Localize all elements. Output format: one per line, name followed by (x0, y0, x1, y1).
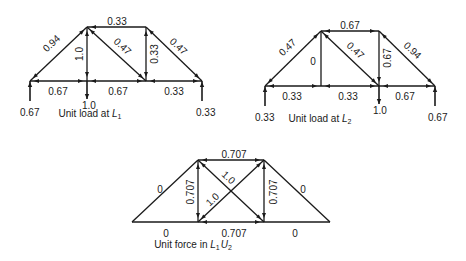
load-value-label: 0.67 (428, 112, 448, 123)
member-force-label: 0.67 (48, 86, 68, 97)
member-force-label: 0.67 (340, 20, 360, 31)
arrow-up-icon (263, 87, 267, 92)
member-U1-L2 (87, 27, 146, 81)
force-arrow-icon (85, 72, 89, 77)
force-arrow-icon (78, 79, 83, 83)
force-arrow-icon (370, 84, 375, 88)
arrow-up-icon (28, 82, 32, 87)
member-U1-L2 (321, 31, 379, 86)
force-arrow-icon (325, 29, 330, 33)
member-force-label: 0 (157, 184, 163, 195)
member-force-label: 0.47 (168, 36, 190, 58)
diagram-caption: Unit load at L2 (289, 113, 352, 125)
force-arrow-icon (202, 220, 207, 224)
force-arrow-icon (269, 84, 274, 88)
arrow-up-icon (433, 87, 437, 92)
truss-influence-diagrams: 0.941.00.330.470.330.470.670.670.330.671… (0, 0, 466, 261)
arrow-up-icon (200, 82, 204, 87)
force-arrow-icon (34, 79, 39, 83)
load-value-label: 0.33 (196, 107, 216, 118)
member-force-label: 0.94 (41, 32, 63, 54)
force-arrow-icon (262, 164, 266, 169)
member-force-label: 0.33 (107, 16, 127, 27)
force-arrow-icon (150, 79, 155, 83)
force-arrow-icon (312, 84, 317, 88)
member-force-label: 0.94 (402, 40, 424, 62)
member-force-label: 0.707 (268, 179, 279, 204)
force-arrow-icon (193, 79, 198, 83)
arrow-down-icon (85, 94, 89, 99)
member-force-label: 0 (292, 228, 298, 239)
member-force-label: 0.67 (382, 48, 393, 68)
force-arrow-icon (91, 79, 96, 83)
force-arrow-icon (262, 213, 266, 218)
force-arrow-icon (85, 31, 89, 36)
force-arrow-icon (144, 31, 148, 36)
member-force-label: 1.0 (74, 47, 85, 61)
member-force-label: 0.33 (149, 44, 160, 64)
force-arrow-icon (91, 25, 96, 29)
arrow-down-icon (377, 99, 381, 104)
force-arrow-icon (325, 84, 330, 88)
load-value-label: 0.33 (255, 112, 275, 123)
member-force-label: 0.707 (221, 228, 246, 239)
truss-unit-load-at-L1: 0.941.00.330.470.330.470.670.670.330.671… (20, 16, 216, 120)
member-force-label: 0.67 (395, 91, 415, 102)
member-force-label: 1.0 (204, 190, 222, 208)
force-arrow-icon (196, 164, 200, 169)
member-force-label: 0.33 (164, 86, 184, 97)
diagram-caption: Unit load at L1 (59, 108, 122, 120)
member-force-label: 0.47 (345, 40, 367, 62)
member-force-label: 0 (310, 56, 316, 67)
force-arrow-icon (255, 220, 260, 224)
force-arrow-icon (196, 213, 200, 218)
load-value-label: 1.0 (373, 105, 387, 116)
member-force-label: 0.33 (338, 91, 358, 102)
member-force-label: 0.33 (282, 91, 302, 102)
force-arrow-icon (137, 79, 142, 83)
force-arrow-icon (383, 84, 388, 88)
force-arrow-icon (377, 77, 381, 82)
member-force-label: 0.707 (185, 179, 196, 204)
diagram-caption: Unit force in L1U2 (154, 239, 232, 251)
member-force-label: 0.67 (108, 86, 128, 97)
truss-unit-force-in-L1U2: 00.7070.7071.01.00.707000.7070Unit force… (132, 149, 330, 251)
force-arrow-icon (202, 158, 207, 162)
member-force-label: 0 (300, 184, 306, 195)
member-force-label: 0.47 (112, 36, 134, 58)
force-arrow-icon (144, 72, 148, 77)
member-force-label: 0.707 (221, 149, 246, 160)
member-force-label: 0.47 (277, 36, 299, 58)
force-arrow-icon (370, 29, 375, 33)
member-force-label: 0 (163, 228, 169, 239)
truss-unit-load-at-L2: 0.4700.670.470.670.940.330.330.670.331.0… (255, 20, 448, 125)
force-arrow-icon (255, 158, 260, 162)
load-value-label: 0.67 (20, 107, 40, 118)
force-arrow-icon (426, 84, 431, 88)
